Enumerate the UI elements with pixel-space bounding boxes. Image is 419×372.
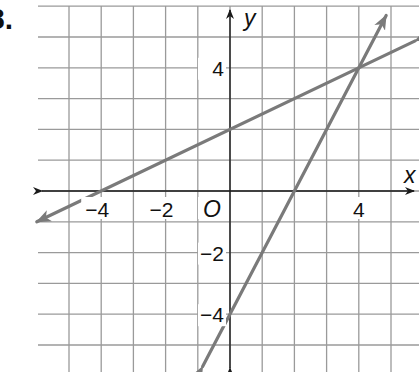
- x-tick-label: 4: [353, 198, 365, 221]
- y-tick-label: −4: [200, 303, 224, 326]
- y-tick-label: 4: [212, 57, 224, 80]
- origin-label: O: [203, 196, 221, 222]
- coordinate-plane: −4−244−2−4Oyx: [0, 0, 419, 372]
- x-tick-label: −2: [150, 198, 174, 221]
- x-tick-label: −4: [85, 198, 109, 221]
- x-axis-label: x: [403, 162, 417, 188]
- y-tick-label: −2: [200, 242, 224, 265]
- y-axis-label: y: [242, 5, 257, 31]
